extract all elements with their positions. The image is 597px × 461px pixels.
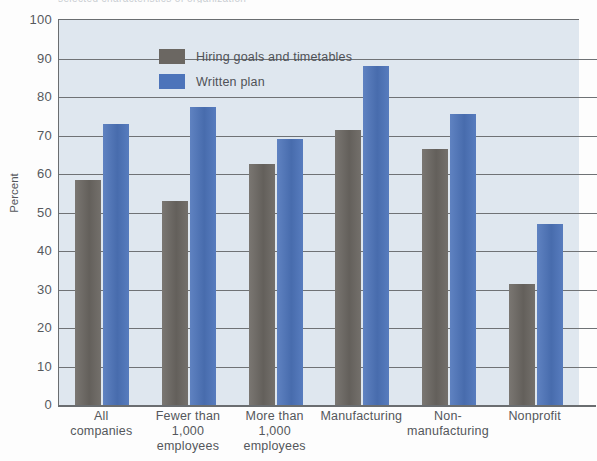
bar [75,180,101,405]
bar [190,107,216,405]
gridline [59,97,597,98]
x-tick-label: More than1,000employees [231,409,318,454]
bar [450,114,476,405]
legend-item: Written plan [159,71,352,92]
legend-swatch-goals-icon [159,49,185,64]
x-axis-labels: AllcompaniesFewer than1,000employeesMore… [58,409,578,461]
bar [103,124,129,405]
x-tick-label: Fewer than1,000employees [145,409,232,454]
gridline [59,136,597,137]
bar [249,164,275,405]
bar [335,130,361,405]
x-tick-label: Manufacturing [318,409,405,424]
x-tick-label: Nonprofit [491,409,578,424]
plot-area: Hiring goals and timetables Written plan [58,19,579,405]
chart-page: selected characteristics of organization… [0,0,597,461]
bar [363,66,389,405]
bar [422,149,448,405]
y-axis-label: Percent [8,163,20,223]
bar [277,139,303,405]
bar [537,224,563,405]
x-tick-label: Non-manufacturing [405,409,492,439]
legend: Hiring goals and timetables Written plan [159,46,352,96]
cropped-caption-sliver: selected characteristics of organization [58,0,478,3]
gridline [59,174,597,175]
legend-label-goals: Hiring goals and timetables [196,50,352,64]
x-tick-label: Allcompanies [58,409,145,439]
gridline [59,251,597,252]
gridline [59,213,597,214]
y-axis-label-wrap: Percent [6,19,22,404]
bar [509,284,535,405]
legend-label-plan: Written plan [196,75,265,89]
legend-swatch-plan-icon [159,74,185,89]
legend-item: Hiring goals and timetables [159,46,352,67]
bar [162,201,188,405]
